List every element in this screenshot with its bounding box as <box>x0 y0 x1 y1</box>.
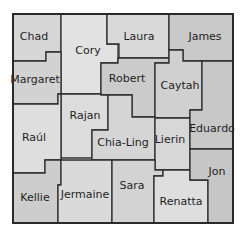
region-label-kellie: Kellie <box>20 191 50 204</box>
region-label-rajan: Rajan <box>70 109 101 122</box>
region-label-lierin: Lierin <box>155 133 186 146</box>
region-label-jermaine: Jermaine <box>60 188 110 201</box>
region-label-chia-ling: Chia-Ling <box>97 136 149 149</box>
region-label-caytah: Caytah <box>161 79 200 92</box>
region-label-jon: Jon <box>208 165 226 178</box>
region-label-renatta: Renatta <box>160 195 203 208</box>
region-label-laura: Laura <box>123 30 154 43</box>
region-label-robert: Robert <box>109 72 146 85</box>
region-label-chad: Chad <box>20 30 48 43</box>
region-label-cory: Cory <box>75 44 101 57</box>
region-label-sara: Sara <box>120 179 145 192</box>
region-label-eduardo: Eduardo <box>189 122 235 135</box>
region-label-margaret: Margaret <box>10 73 60 86</box>
name-region-map: ChadCoryLauraJamesMargaretRobertCaytahRa… <box>0 0 248 235</box>
region-label-raul: Raúl <box>22 131 46 144</box>
region-label-james: James <box>187 30 221 43</box>
